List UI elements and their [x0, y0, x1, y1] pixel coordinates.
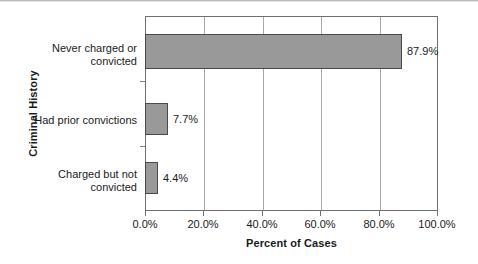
x-axis-tick — [262, 211, 263, 216]
x-axis-tick — [145, 211, 146, 216]
bar-value-label: 4.4% — [163, 173, 188, 184]
x-axis-tick — [379, 211, 380, 216]
x-axis-tick-label: 80.0% — [363, 218, 394, 230]
bar-charged-but-not-convicted[interactable] — [145, 162, 158, 194]
x-axis-tick — [203, 211, 204, 216]
category-label-line: Never charged or — [10, 42, 137, 55]
category-label-line: Had prior convictions — [10, 114, 137, 127]
x-axis-tick — [437, 211, 438, 216]
bar-row: 4.4% — [145, 162, 438, 194]
category-label-line: Charged but not — [10, 168, 137, 181]
category-label-had-prior-convictions: Had prior convictions — [10, 114, 145, 127]
scan-edge-line — [0, 0, 478, 2]
bar-value-label: 7.7% — [173, 114, 198, 125]
x-axis-tick-label: 100.0% — [418, 218, 455, 230]
x-axis-title: Percent of Cases — [145, 237, 438, 249]
bar-never-charged-or-convicted[interactable] — [145, 34, 402, 69]
category-label-line: convicted — [10, 181, 137, 194]
category-label-line: convicted — [10, 55, 137, 68]
bars-layer: 87.9% 7.7% 4.4% — [145, 16, 438, 211]
x-axis-tick-label: 60.0% — [304, 218, 335, 230]
category-label-charged-but-not-convicted: Charged but not convicted — [10, 168, 145, 194]
category-axis-labels: Never charged or convicted Had prior con… — [0, 16, 145, 211]
x-axis-tick-label: 0.0% — [132, 218, 157, 230]
bar-row: 87.9% — [145, 34, 438, 69]
bar-row: 7.7% — [145, 103, 438, 135]
bar-value-label: 87.9% — [407, 46, 438, 57]
x-axis-tick — [320, 211, 321, 216]
bar-chart-figure: Criminal History Never charged or convic… — [0, 0, 478, 264]
x-axis-tick-label: 40.0% — [246, 218, 277, 230]
x-axis-tick-label: 20.0% — [187, 218, 218, 230]
category-label-never-charged-or-convicted: Never charged or convicted — [10, 42, 145, 68]
bar-had-prior-convictions[interactable] — [145, 103, 168, 135]
